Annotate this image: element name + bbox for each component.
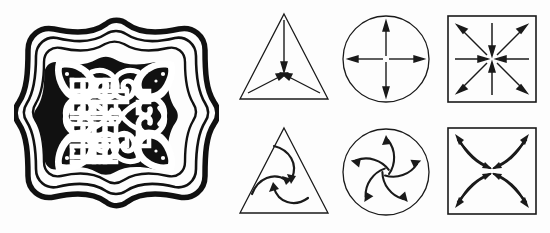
- circle-arrow-set: [348, 21, 424, 97]
- triangle-curved-arrows: [232, 116, 336, 226]
- symmetry-comparison-figure: [0, 0, 550, 233]
- knotwork-ornament: [14, 4, 219, 229]
- square-petal-arrow-set: [455, 134, 529, 208]
- square-curved-arrows: [438, 116, 546, 226]
- circle-straight-arrows: [334, 4, 438, 110]
- symmetry-diagram-grid: [232, 4, 548, 231]
- triangle-arrow-set: [248, 20, 320, 93]
- square-arrow-set: [455, 23, 529, 95]
- circle-curved-arrows: [334, 116, 438, 226]
- circle-curved-arrow-set: [350, 135, 424, 207]
- triangle-straight-arrows: [232, 4, 336, 110]
- square-straight-arrows: [438, 4, 546, 110]
